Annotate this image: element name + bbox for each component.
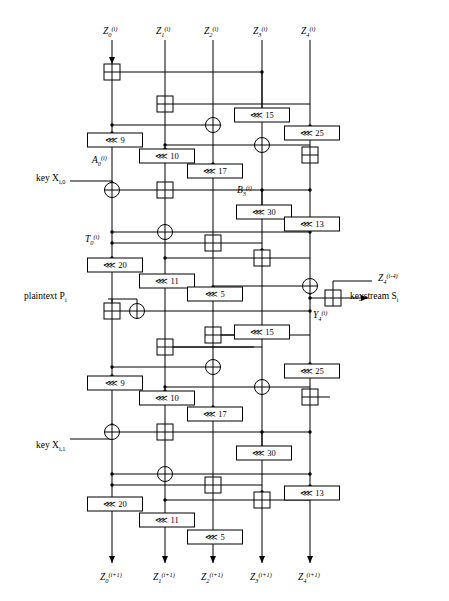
xor-operator	[158, 467, 173, 482]
rotate-left-box: ⋘ 10	[140, 391, 195, 405]
rotation-amount-label: ⋘ 10	[155, 151, 179, 161]
rotation-amount-label: ⋘ 15	[250, 110, 274, 120]
modular-add-operator	[205, 327, 221, 343]
rotate-left-box: ⋘ 5	[188, 287, 243, 301]
modular-add-operator	[157, 96, 173, 112]
rotate-left-box: ⋘ 13	[285, 217, 340, 231]
rotate-left-box: ⋘ 15	[235, 325, 290, 339]
xor-operator	[105, 183, 120, 198]
xor-operator	[105, 425, 120, 440]
column-top-label-z1: Z1(i)	[156, 25, 170, 39]
modular-add-operator	[104, 303, 120, 319]
rotate-left-box: ⋘ 17	[188, 164, 243, 178]
column-top-label-z0: Z0(i)	[103, 25, 117, 39]
rotation-amount-label: ⋘ 11	[155, 276, 178, 286]
modular-add-operator	[157, 182, 173, 198]
xor-operator	[255, 138, 270, 153]
rotation-amount-label: ⋘ 15	[250, 327, 274, 337]
io-label-keystream: keystream Si	[350, 291, 399, 303]
rotation-amount-label: ⋘ 10	[155, 393, 179, 403]
modular-add-operator	[254, 250, 270, 266]
rotation-amount-label: ⋘ 25	[300, 128, 324, 138]
rotation-amount-label: ⋘ 9	[105, 135, 124, 145]
xor-operator	[206, 360, 221, 375]
diagram-canvas: ⋘ 15⋘ 9⋘ 25⋘ 10⋘ 17⋘ 30⋘ 13⋘ 20⋘ 11⋘ 5⋘ …	[0, 0, 449, 601]
column-bottom-label-z1: Z1(i+1)	[153, 571, 175, 585]
rotation-amount-label: ⋘ 13	[300, 219, 324, 229]
rotation-amount-label: ⋘ 5	[205, 289, 224, 299]
annotation-Y4: Y4(i)	[313, 309, 327, 323]
rotation-amount-label: ⋘ 25	[300, 366, 324, 376]
rotation-amount-label: ⋘ 20	[103, 499, 127, 509]
column-bottom-label-z0: Z0(i+1)	[100, 571, 122, 585]
modular-add-operator	[157, 339, 173, 355]
annotation-T0: T0(i)	[85, 233, 99, 247]
rotate-left-box: ⋘ 10	[140, 149, 195, 163]
rotate-left-box: ⋘ 20	[88, 258, 143, 272]
modular-add-operator	[325, 290, 341, 306]
rotation-amount-label: ⋘ 17	[203, 166, 227, 176]
rotate-left-box: ⋘ 25	[285, 364, 340, 378]
rotate-left-box: ⋘ 20	[88, 497, 143, 511]
io-label-key1: key Xi,1	[36, 440, 65, 452]
rotate-left-box: ⋘ 11	[140, 513, 195, 527]
modular-add-operator	[205, 235, 221, 251]
xor-operator	[130, 304, 145, 319]
rotate-left-box: ⋘ 9	[88, 376, 143, 390]
rotate-left-box: ⋘ 25	[285, 126, 340, 140]
rotate-left-box: ⋘ 30	[237, 205, 292, 219]
modular-add-operator	[302, 147, 318, 163]
modular-add-operator	[104, 64, 120, 80]
annotation-Z4m4: Z4(i-4)	[378, 272, 398, 286]
modular-add-operator	[157, 424, 173, 440]
modular-add-operator	[254, 492, 270, 508]
rotation-amount-label: ⋘ 17	[203, 409, 227, 419]
annotation-B3: B3(i)	[237, 184, 252, 198]
rotate-left-box: ⋘ 13	[285, 486, 340, 500]
rotation-amount-label: ⋘ 20	[103, 260, 127, 270]
rotate-left-box: ⋘ 5	[188, 530, 243, 544]
xor-operator	[255, 380, 270, 395]
xor-operator	[158, 225, 173, 240]
rotation-amount-label: ⋘ 11	[155, 515, 178, 525]
column-top-label-z3: Z3(i)	[253, 25, 267, 39]
io-label-plaintext: plaintext Pi	[24, 291, 67, 303]
rotate-left-box: ⋘ 15	[235, 108, 290, 122]
column-bottom-label-z2: Z2(i+1)	[201, 571, 223, 585]
io-label-key0: key Xi,0	[36, 173, 65, 185]
rotation-amount-label: ⋘ 30	[252, 207, 276, 217]
cipher-datapath-svg: ⋘ 15⋘ 9⋘ 25⋘ 10⋘ 17⋘ 30⋘ 13⋘ 20⋘ 11⋘ 5⋘ …	[0, 0, 449, 601]
column-bottom-label-z3: Z3(i+1)	[250, 571, 272, 585]
annotation-A0: A0(i)	[91, 154, 107, 168]
rotation-amount-label: ⋘ 9	[105, 378, 124, 388]
column-top-label-z2: Z2(i)	[204, 25, 218, 39]
rotation-amount-label: ⋘ 13	[300, 488, 324, 498]
rotate-left-box: ⋘ 11	[140, 274, 195, 288]
xor-operator	[303, 279, 318, 294]
column-bottom-label-z4: Z4(i+1)	[298, 571, 320, 585]
rotate-left-box: ⋘ 17	[188, 407, 243, 421]
rotate-left-box: ⋘ 9	[88, 133, 143, 147]
column-top-label-z4: Z4(i)	[301, 25, 315, 39]
rotate-left-box: ⋘ 30	[237, 446, 292, 460]
modular-add-operator	[205, 477, 221, 493]
modular-add-operator	[302, 389, 318, 405]
rotation-amount-label: ⋘ 5	[205, 532, 224, 542]
xor-operator	[206, 118, 221, 133]
rotation-amount-label: ⋘ 30	[252, 448, 276, 458]
